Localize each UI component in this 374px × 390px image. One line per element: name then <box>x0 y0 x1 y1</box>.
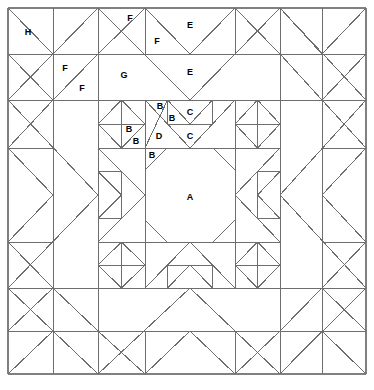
piece-label-b2: B <box>169 113 176 123</box>
piece-label-h: H <box>25 27 32 37</box>
piece-label-b5: B <box>149 150 156 160</box>
piece-label-b1: B <box>157 101 164 111</box>
piece-label-d: D <box>156 131 163 141</box>
piece-label-f4: F <box>79 83 85 93</box>
piece-label-f3: F <box>62 63 68 73</box>
piece-label-e2: E <box>187 67 193 77</box>
piece-label-g: G <box>120 70 127 80</box>
piece-label-c1: C <box>187 107 194 117</box>
piece-label-b3: B <box>126 124 133 134</box>
piece-label-e1: E <box>187 20 193 30</box>
piece-label-b4: B <box>133 136 140 146</box>
piece-label-f1: F <box>127 13 133 23</box>
quilt-block-diagram: ABBBBBCCDEEFFFFGH <box>0 0 374 390</box>
piece-label-f2: F <box>154 36 160 46</box>
piece-label-c2: C <box>187 131 194 141</box>
piece-label-a: A <box>187 192 194 202</box>
